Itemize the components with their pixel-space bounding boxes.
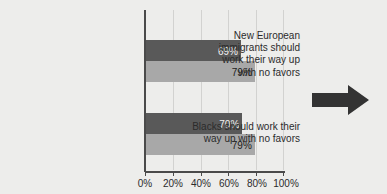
x-tick-label-100: 100% xyxy=(273,178,299,189)
category-label-1: Blacks should work their way up with no … xyxy=(162,121,300,145)
x-axis-line xyxy=(145,171,285,173)
x-tick-0 xyxy=(145,171,146,176)
x-tick-100 xyxy=(283,171,284,176)
y-axis-line xyxy=(144,10,146,172)
x-tick-label-80: 80% xyxy=(247,178,267,189)
x-tick-60 xyxy=(228,171,229,176)
chart-figure: 69% 79% 70% 79% 0% 20% 40% 60% 80% xyxy=(0,0,387,194)
bar-chart: 69% 79% 70% 79% 0% 20% 40% 60% 80% xyxy=(0,8,300,194)
x-tick-label-60: 60% xyxy=(219,178,239,189)
right-arrow-icon xyxy=(312,84,370,116)
x-tick-40 xyxy=(201,171,202,176)
x-tick-20 xyxy=(173,171,174,176)
category-label-0: New European immigrants should work thei… xyxy=(162,30,300,79)
cropped-title-remnant xyxy=(18,0,218,5)
x-tick-label-40: 40% xyxy=(191,178,211,189)
x-tick-80 xyxy=(256,171,257,176)
x-tick-label-0: 0% xyxy=(138,178,152,189)
x-tick-label-20: 20% xyxy=(163,178,183,189)
